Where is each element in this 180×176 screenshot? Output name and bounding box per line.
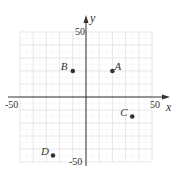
y-axis-arrow-icon — [84, 15, 89, 23]
y-tick-label: -50 — [69, 156, 82, 167]
point-label: A — [113, 60, 121, 72]
x-tick-label: -50 — [5, 99, 18, 110]
x-axis-label: x — [165, 100, 172, 114]
x-tick-label: 50 — [150, 99, 160, 110]
point-marker-icon — [51, 153, 56, 158]
coordinate-plane: xy -505050-50 ABCD — [0, 0, 180, 176]
point-a: A — [110, 60, 121, 73]
y-axis-label: y — [89, 11, 96, 25]
point-marker-icon — [130, 114, 135, 119]
data-points: ABCD — [40, 60, 135, 158]
x-axis-arrow-icon — [162, 95, 170, 100]
point-marker-icon — [71, 69, 76, 74]
point-label: C — [120, 106, 128, 118]
point-label: B — [61, 60, 68, 72]
point-d: D — [40, 145, 55, 158]
y-tick-label: 50 — [75, 26, 85, 37]
point-label: D — [40, 145, 49, 157]
